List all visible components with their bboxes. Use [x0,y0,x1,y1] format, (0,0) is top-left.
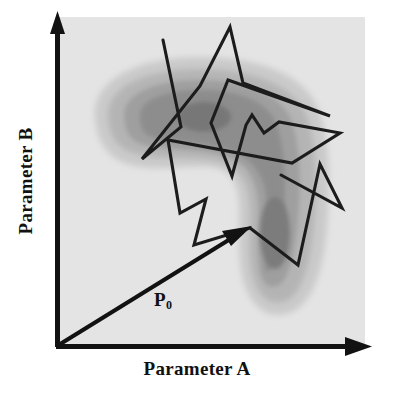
optimization-contour-figure: Parameter A Parameter B P0 [0,0,394,393]
p0-letter: P [154,289,166,310]
x-axis-label: Parameter A [0,358,394,380]
p0-subscript: 0 [166,298,172,312]
p0-start-point-label: P0 [154,289,172,311]
y-axis-label: Parameter B [15,91,37,271]
figure-canvas [0,0,394,393]
